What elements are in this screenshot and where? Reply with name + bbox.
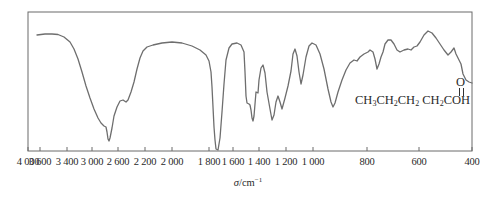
x-tick-label: 1 800: [198, 156, 221, 167]
x-tick-label: 400: [464, 156, 479, 167]
x-tick-label: 600: [411, 156, 426, 167]
x-tick-label: 3 600: [29, 156, 52, 167]
spectrum-line: [37, 31, 472, 150]
x-tick-label: 2 000: [161, 156, 184, 167]
x-tick-label: 1 400: [248, 156, 271, 167]
plot-frame: [28, 12, 472, 151]
x-tick-label: 3 400: [56, 156, 79, 167]
x-axis-unit: /cm: [239, 177, 255, 188]
formula-part: CH: [419, 93, 440, 107]
x-tick-label: 1 200: [275, 156, 298, 167]
formula-part: CH: [355, 93, 372, 107]
x-axis-exponent: −1: [255, 176, 262, 184]
x-tick-label: 2 200: [134, 156, 157, 167]
formula-part: COH: [444, 93, 470, 107]
x-tick-label: 800: [359, 156, 374, 167]
x-tick-label: 2 600: [107, 156, 130, 167]
x-axis-ticks: [28, 147, 472, 151]
formula-part: CH: [398, 93, 415, 107]
x-tick-label: 1 600: [222, 156, 245, 167]
x-tick-label: 3 000: [81, 156, 104, 167]
x-tick-label: 1 000: [302, 156, 325, 167]
formula-part: CH: [376, 93, 393, 107]
x-axis-label: σ/cm−1: [234, 176, 262, 188]
molecule-formula: CH3CH2CH2 CH2COH: [355, 93, 470, 108]
